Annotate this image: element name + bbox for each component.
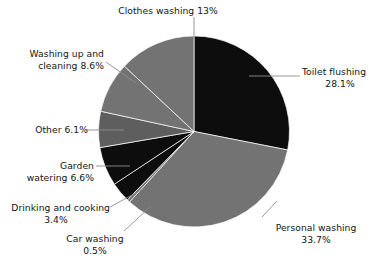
slice-label-drinking-and-cooking: Drinking and cooking 3.4% [2, 202, 110, 225]
pie-slice-toilet-flushing [194, 36, 289, 150]
slice-label-washing-up-and-cleaning-line2: cleaning 8.6% [6, 60, 104, 72]
slice-label-toilet-flushing-line1: Toilet flushing [302, 66, 366, 77]
slice-label-washing-up-and-cleaning-line1: Washing up and [30, 48, 104, 59]
slice-label-toilet-flushing: Toilet flushing 28.1% [302, 66, 378, 89]
slice-label-car-washing: Car washing 0.5% [56, 233, 134, 256]
slice-label-garden-watering-line1: Garden [60, 160, 94, 171]
slice-label-drinking-and-cooking-line1: Drinking and cooking [11, 202, 110, 213]
slice-label-car-washing-line2: 0.5% [56, 245, 134, 257]
slice-label-other: Other 6.1% [4, 124, 88, 136]
slice-label-personal-washing-line2: 33.7% [264, 234, 368, 246]
slice-label-washing-up-and-cleaning: Washing up and cleaning 8.6% [6, 48, 104, 71]
leader-line-car [124, 207, 150, 231]
slice-label-clothes-washing-line1: Clothes washing 13% [118, 5, 218, 16]
slice-label-drinking-and-cooking-line2: 3.4% [2, 214, 110, 226]
slice-label-clothes-washing: Clothes washing 13% [104, 5, 232, 17]
slice-label-personal-washing: Personal washing 33.7% [264, 222, 368, 245]
leader-line-personal [262, 201, 277, 217]
pie-chart: Clothes washing 13% Toilet flushing 28.1… [0, 0, 380, 266]
slice-label-garden-watering: Garden watering 6.6% [10, 160, 94, 183]
slice-label-toilet-flushing-line2: 28.1% [302, 78, 378, 90]
slice-label-garden-watering-line2: watering 6.6% [10, 172, 94, 184]
slice-label-personal-washing-line1: Personal washing [276, 222, 357, 233]
slice-label-car-washing-line1: Car washing [66, 233, 123, 244]
slice-label-other-line1: Other 6.1% [35, 124, 88, 135]
pie-slice-group [98, 36, 289, 227]
